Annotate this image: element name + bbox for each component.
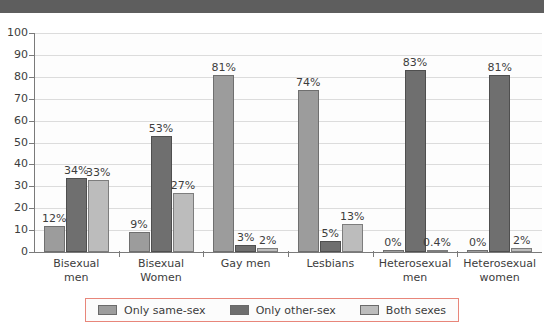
legend-item-label: Both sexes [386,305,446,316]
legend-item[interactable]: Only other-sex [230,305,336,316]
bar[interactable]: 74% [298,90,319,252]
bar-value-label: 2% [513,235,530,246]
bar[interactable]: 3% [235,245,256,252]
bar-value-label: 83% [403,57,427,68]
bar-group-bars: 0%81%2% [457,33,542,252]
x-axis-category-label-line: men [34,271,119,285]
x-axis-category-label-line: Gay men [203,257,288,271]
bar-value-label: 12% [42,213,66,224]
x-axis-category-label-line: Heterosexual [373,257,458,271]
legend-item-label: Only same-sex [124,305,205,316]
y-axis-tick-label: 70 [14,93,28,104]
bar[interactable]: 9% [129,232,150,252]
x-axis-category-label: Heterosexualmen [373,257,458,291]
legend-item[interactable]: Both sexes [360,305,446,316]
legend-item-label: Only other-sex [256,305,336,316]
x-axis-category-label: BisexualWomen [119,257,204,291]
y-axis-tick-mark [29,252,34,253]
bar-group: 9%53%27% [119,33,204,252]
x-axis-category-label-line: men [373,271,458,285]
y-axis-tick-label: 90 [14,49,28,60]
y-axis-tick-label: 30 [14,180,28,191]
bar-value-label: 34% [64,165,88,176]
bar-group-bars: 74%5%13% [288,33,373,252]
y-axis-tick-label: 100 [7,27,28,38]
x-axis-category-label: Lesbians [288,257,373,291]
bar[interactable]: 2% [511,248,532,252]
bar[interactable]: 27% [173,193,194,252]
bar[interactable]: 34% [66,178,87,252]
bar-value-label: 27% [171,180,195,191]
x-axis-category-label-line: Bisexual [119,257,204,271]
y-axis-tick-label: 20 [14,202,28,213]
bar[interactable]: 5% [320,241,341,252]
bar-groups: 12%34%33%9%53%27%81%3%2%74%5%13%0%83%0.4… [34,33,542,252]
bar-value-label: 33% [86,167,110,178]
bar-value-label: 53% [149,123,173,134]
chart-page: 0102030405060708090100 12%34%33%9%53%27%… [0,0,544,327]
bar[interactable]: 81% [213,75,234,252]
x-axis-category-label-line: Bisexual [34,257,119,271]
x-axis-category-label: Gay men [203,257,288,291]
x-axis-category-label-line: Lesbians [288,257,373,271]
x-axis-category-label-line: women [457,271,542,285]
bar-value-label: 3% [237,232,254,243]
bar-group-bars: 0%83%0.4% [373,33,458,252]
bar-group: 74%5%13% [288,33,373,252]
x-axis-category-label: Heterosexualwomen [457,257,542,291]
x-axis-category-label-line: Women [119,271,204,285]
x-axis-category-label-line: Heterosexual [457,257,542,271]
legend-swatch-only-other-sex [230,305,249,315]
top-banner-bar [0,0,544,13]
bar-group: 0%83%0.4% [373,33,458,252]
bar-group: 12%34%33% [34,33,119,252]
bar[interactable]: 83% [405,70,426,252]
y-axis-tick-label: 40 [14,158,28,169]
y-axis-tick-label: 50 [14,137,28,148]
bar-value-label: 0% [469,237,486,248]
bar-group-bars: 9%53%27% [119,33,204,252]
bar-value-label: 0% [384,237,401,248]
bar[interactable]: 0% [467,250,488,252]
y-axis-tick-label: 60 [14,115,28,126]
bar-group: 0%81%2% [457,33,542,252]
bar-group-bars: 12%34%33% [34,33,119,252]
bar[interactable]: 0.4% [427,250,448,252]
y-axis-tick-label: 10 [14,224,28,235]
bar-value-label: 5% [322,228,339,239]
bar[interactable]: 2% [257,248,278,252]
bar[interactable]: 0% [383,250,404,252]
x-axis-category-label: Bisexualmen [34,257,119,291]
legend-swatch-only-same-sex [98,305,117,315]
bar-value-label: 0.4% [423,237,451,248]
bar[interactable]: 13% [342,224,363,252]
bar[interactable]: 81% [489,75,510,252]
y-axis: 0102030405060708090100 [0,0,34,327]
bar-value-label: 9% [130,219,147,230]
bar-value-label: 74% [296,77,320,88]
legend-swatch-both-sexes [360,305,379,315]
bar-value-label: 13% [340,211,364,222]
bar[interactable]: 12% [44,226,65,252]
legend-item[interactable]: Only same-sex [98,305,205,316]
bar-group-bars: 81%3%2% [203,33,288,252]
bar-value-label: 81% [487,62,511,73]
bar-value-label: 2% [259,235,276,246]
bar-value-label: 81% [211,62,235,73]
bar-group: 81%3%2% [203,33,288,252]
y-axis-tick-label: 0 [21,246,28,257]
bar[interactable]: 33% [88,180,109,252]
bar[interactable]: 53% [151,136,172,252]
chart-legend: Only same-sexOnly other-sexBoth sexes [85,298,459,322]
y-axis-tick-label: 80 [14,71,28,82]
x-axis-labels: BisexualmenBisexualWomenGay menLesbiansH… [34,257,542,291]
